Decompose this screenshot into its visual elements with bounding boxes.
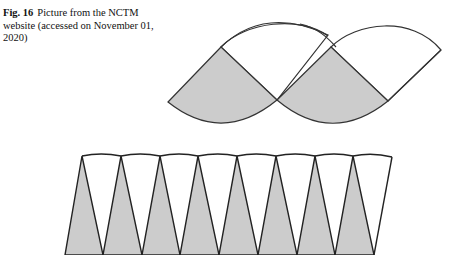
- gray-triangle-7: [297, 156, 335, 255]
- gray-triangle-4: [180, 156, 219, 255]
- top-figure-sector-nets: [168, 23, 441, 124]
- figure-illustration: [0, 0, 452, 255]
- bottom-figure-triangle-strip: [65, 154, 392, 255]
- gray-triangle-5: [219, 156, 258, 255]
- top-arc-edge: [82, 154, 392, 157]
- gray-triangle-6: [258, 156, 297, 255]
- gray-triangle-8: [335, 156, 374, 255]
- gray-triangle-1: [65, 156, 103, 255]
- gray-triangle-3: [142, 156, 180, 255]
- gray-triangle-2: [103, 156, 142, 255]
